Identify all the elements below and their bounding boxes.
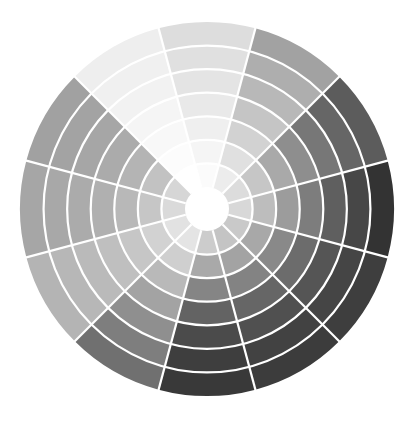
color-wheel [0, 0, 414, 421]
ring-cell [183, 116, 231, 142]
ring-cell [183, 276, 231, 302]
ring-cell [274, 185, 300, 233]
center-disk [185, 187, 229, 231]
ring-cell [114, 185, 140, 233]
color-wheel-container: Grayscale color wheel [0, 0, 414, 421]
